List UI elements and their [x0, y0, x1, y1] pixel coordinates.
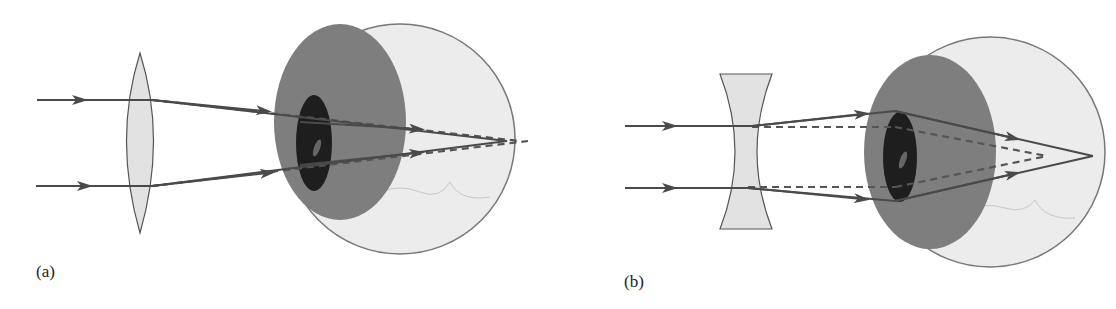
panel-label-b: (b) — [624, 272, 644, 292]
eyeball-b — [864, 37, 1105, 267]
convex-lens — [127, 53, 154, 233]
panel-b — [625, 37, 1105, 267]
panel-label-a: (a) — [36, 262, 55, 282]
pupil-a — [296, 95, 332, 191]
optics-diagram — [0, 0, 1116, 309]
pupil-b — [883, 112, 917, 202]
eyeball-a — [274, 24, 515, 254]
concave-lens — [720, 74, 772, 229]
panel-a — [36, 24, 528, 254]
